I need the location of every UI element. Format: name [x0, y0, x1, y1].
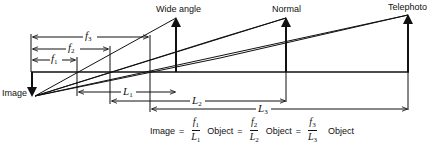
f3-label: f3	[85, 30, 92, 43]
equals-sign: =	[179, 126, 184, 136]
object-word-1: Object	[207, 126, 233, 136]
object-word-3: Object	[328, 126, 354, 136]
fraction-f1-L1: f1 L1	[191, 117, 200, 144]
ray-tele-upper	[220, 15, 408, 58]
telephoto-label: Telephoto	[388, 3, 427, 12]
light-rays	[35, 15, 408, 96]
normal-label: Normal	[272, 5, 301, 14]
equation-lhs: Image	[150, 126, 175, 136]
image-label: Image	[2, 89, 27, 98]
equals-sign: =	[237, 126, 242, 136]
equals-sign: =	[296, 126, 301, 136]
fraction-f3-L3: f3 L3	[308, 117, 317, 144]
L3-label: L3	[258, 103, 268, 116]
f1-label: f1	[51, 53, 58, 66]
object-word-2: Object	[266, 126, 292, 136]
wide-angle-label: Wide angle	[156, 5, 201, 14]
magnification-equation: Image = f1 L1 Object = f2 L2 Object = f3…	[148, 117, 356, 144]
ray-normal-upper	[220, 18, 286, 38]
f2-label: f2	[68, 42, 75, 55]
L2-label: L2	[192, 95, 202, 108]
L1-label: L1	[123, 86, 133, 99]
fraction-f2-L2: f2 L2	[250, 117, 259, 144]
